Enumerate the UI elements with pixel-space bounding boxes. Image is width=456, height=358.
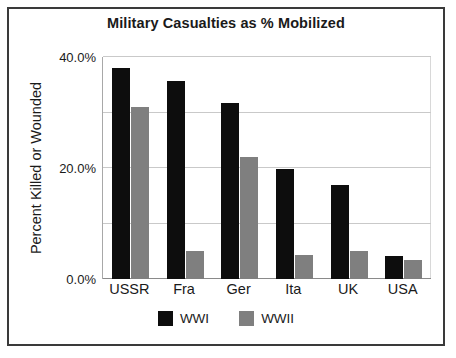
legend-label: WWI xyxy=(180,311,209,326)
bar-ussr-wwii xyxy=(131,107,149,279)
y-axis-tick-label: 0.0% xyxy=(66,272,96,287)
bar-group xyxy=(276,57,313,279)
y-axis-tick-label: 20.0% xyxy=(59,161,96,176)
bar-group xyxy=(112,57,149,279)
bar-group xyxy=(385,57,422,279)
legend-swatch-icon xyxy=(158,311,173,326)
bar-group xyxy=(221,57,258,279)
category-label-ger: Ger xyxy=(227,281,251,297)
legend-swatch-icon xyxy=(239,311,254,326)
category-label-fra: Fra xyxy=(173,281,195,297)
bar-uk-wwi xyxy=(331,185,349,279)
legend-label: WWII xyxy=(261,311,294,326)
category-label-ussr: USSR xyxy=(109,281,149,297)
y-axis-tick-label: 40.0% xyxy=(59,50,96,65)
bar-ger-wwii xyxy=(240,157,258,279)
bars-layer xyxy=(103,57,431,279)
bar-group xyxy=(331,57,368,279)
category-label-usa: USA xyxy=(388,281,418,297)
legend-item-wwi[interactable]: WWI xyxy=(158,311,209,326)
bar-usa-wwii xyxy=(404,260,422,279)
y-axis-title: Percent Killed or Wounded xyxy=(25,57,47,279)
bar-usa-wwi xyxy=(385,256,403,279)
plot-area: 0.0%20.0%40.0%60.0%80.0% xyxy=(102,57,431,279)
legend-item-wwii[interactable]: WWII xyxy=(239,311,294,326)
bar-ita-wwii xyxy=(295,255,313,279)
category-label-uk: UK xyxy=(338,281,358,297)
bar-uk-wwii xyxy=(350,251,368,279)
chart-title: Military Casualties as % Mobilized xyxy=(9,15,443,31)
bar-ger-wwi xyxy=(221,103,239,279)
bar-fra-wwii xyxy=(186,251,204,279)
bar-group xyxy=(167,57,204,279)
bar-ita-wwi xyxy=(276,169,294,279)
y-axis-title-label: Percent Killed or Wounded xyxy=(28,82,44,254)
chart-legend: WWIWWII xyxy=(9,311,443,326)
category-axis: USSRFraGerItaUKUSA xyxy=(102,281,430,303)
chart-frame: Military Casualties as % Mobilized Perce… xyxy=(7,7,445,346)
bar-fra-wwi xyxy=(167,81,185,279)
category-label-ita: Ita xyxy=(285,281,301,297)
bar-ussr-wwi xyxy=(112,68,130,279)
